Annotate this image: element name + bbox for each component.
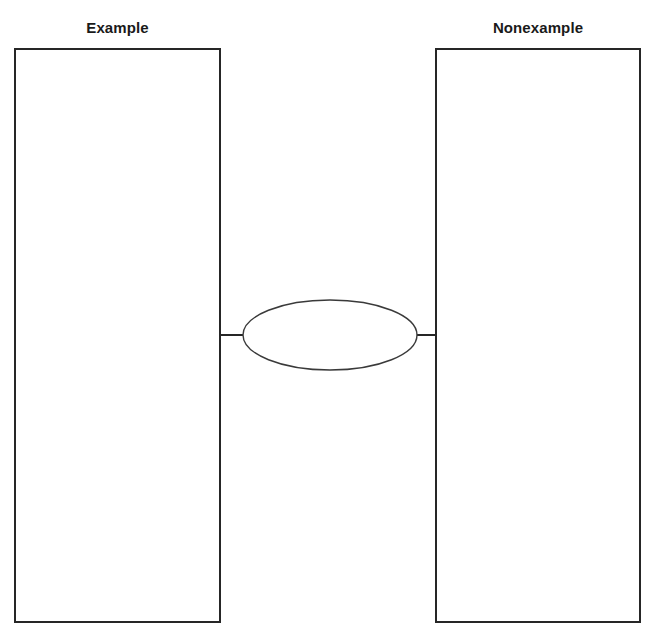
example-entry-box[interactable] [14, 48, 221, 623]
center-concept-label [243, 300, 417, 370]
nonexample-entry-box[interactable] [435, 48, 641, 623]
graphic-organizer-canvas: Example Nonexample [0, 0, 647, 642]
example-column-title: Example [14, 19, 221, 37]
nonexample-column-title: Nonexample [435, 19, 641, 37]
example-entry-text [16, 50, 219, 66]
nonexample-entry-text [437, 50, 639, 66]
